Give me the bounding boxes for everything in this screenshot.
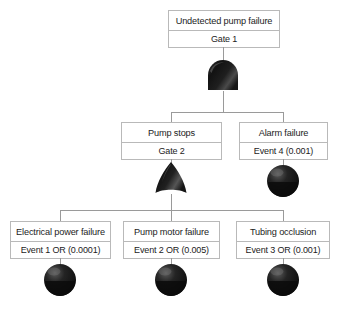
fault-tree-diagram: Undetected pump failure Gate 1	[0, 0, 344, 311]
connector-gate1-to-bus1	[223, 91, 224, 112]
node-subtitle: Gate 2	[122, 142, 221, 159]
basic-event-symbol-event2	[154, 263, 188, 297]
node-title: Tubing occlusion	[237, 222, 329, 241]
node-undetected-pump-failure[interactable]: Undetected pump failure Gate 1	[168, 10, 280, 48]
and-gate-symbol-gate1	[206, 59, 240, 92]
basic-event-symbol-event4	[266, 164, 300, 198]
or-gate-symbol-gate2	[154, 161, 188, 196]
connector-bus1-to-alarm-failure	[283, 112, 284, 122]
node-subtitle: Event 4 (0.001)	[240, 142, 327, 159]
connector-bus-level1	[171, 112, 283, 113]
node-title: Undetected pump failure	[169, 11, 279, 30]
node-subtitle: Event 2 OR (0.005)	[124, 241, 219, 258]
node-title: Alarm failure	[240, 123, 327, 142]
node-pump-motor-failure[interactable]: Pump motor failure Event 2 OR (0.005)	[123, 221, 220, 259]
connector-gate2-to-bus2	[171, 194, 172, 210]
connector-bus2-to-electrical-power-failure	[60, 210, 61, 221]
node-title: Pump motor failure	[124, 222, 219, 241]
connector-bus2-to-tubing-occlusion	[283, 210, 284, 221]
node-electrical-power-failure[interactable]: Electrical power failure Event 1 OR (0.0…	[10, 221, 111, 259]
connector-bus2-to-pump-motor-failure	[171, 210, 172, 221]
node-alarm-failure[interactable]: Alarm failure Event 4 (0.001)	[239, 122, 328, 160]
basic-event-symbol-event1	[43, 263, 77, 297]
node-title: Electrical power failure	[11, 222, 110, 241]
node-subtitle: Gate 1	[169, 30, 279, 47]
node-tubing-occlusion[interactable]: Tubing occlusion Event 3 OR (0.001)	[236, 221, 330, 259]
node-pump-stops[interactable]: Pump stops Gate 2	[121, 122, 222, 160]
node-subtitle: Event 1 OR (0.0001)	[11, 241, 110, 258]
basic-event-symbol-event3	[266, 263, 300, 297]
node-subtitle: Event 3 OR (0.001)	[237, 241, 329, 258]
node-title: Pump stops	[122, 123, 221, 142]
connector-bus1-to-pump-stops	[171, 112, 172, 122]
